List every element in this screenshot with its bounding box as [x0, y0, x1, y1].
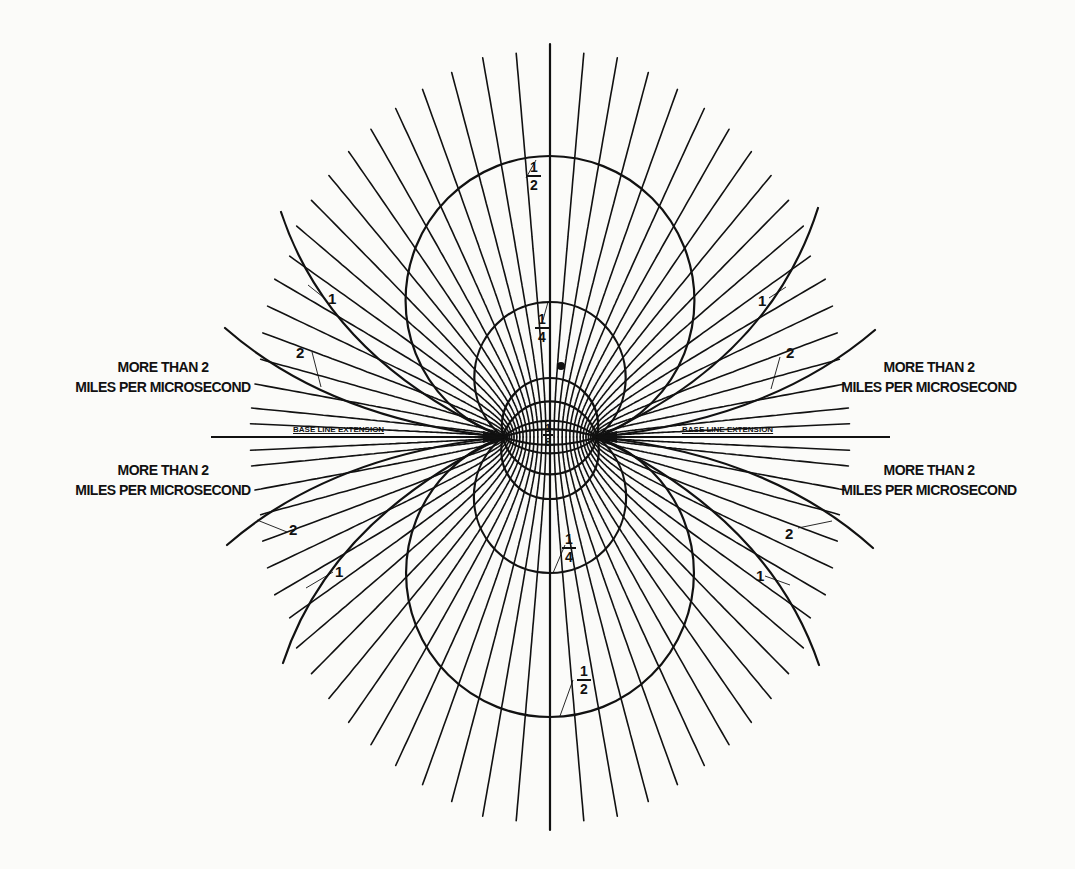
radial-hyperbola-line	[570, 437, 705, 766]
region-label-line2: MILES PER MICROSECOND	[52, 377, 274, 397]
leader-2-upper-left	[312, 352, 321, 387]
region-label-line2: MILES PER MICROSECOND	[818, 377, 1040, 397]
side-contour-label-1-lower-left: 1	[335, 564, 343, 579]
region-label-line1: MORE THAN 2	[818, 460, 1040, 480]
leader-1-upper-right	[769, 287, 786, 298]
region-label-lower-right: MORE THAN 2 MILES PER MICROSECOND	[818, 460, 1040, 500]
region-label-line1: MORE THAN 2	[818, 357, 1040, 377]
hyperbolic-navigation-diagram: BASE LINE EXTENSION BASE LINE EXTENSION …	[0, 0, 1075, 869]
side-contour-label-1-lower-right: 1	[756, 568, 764, 583]
region-label-line1: MORE THAN 2	[52, 460, 274, 480]
contour-label-half-top: 1 2	[527, 160, 541, 192]
contour-label-eighth: 1 8	[543, 423, 553, 447]
leader-half-bottom	[560, 680, 573, 716]
baseline-extension-label-left: BASE LINE EXTENSION	[293, 425, 384, 434]
denominator: 4	[562, 549, 576, 564]
leader-2-lower-left	[257, 520, 287, 532]
side-contour-1-lower-left	[283, 437, 503, 663]
side-contour-label-1-upper-left: 1	[328, 291, 336, 306]
side-contour-1-lower-right	[597, 437, 819, 665]
numerator: 1	[527, 160, 541, 177]
side-contour-label-1-upper-right: 1	[758, 293, 766, 308]
baseline-extension-label-right: BASE LINE EXTENSION	[682, 425, 773, 434]
denominator: 2	[527, 177, 541, 192]
region-label-line1: MORE THAN 2	[52, 357, 274, 377]
denominator: 4	[535, 329, 549, 344]
side-contour-label-2-lower-right: 2	[785, 526, 793, 541]
diagram-canvas	[0, 0, 1075, 869]
denominator: 8	[543, 436, 553, 447]
contour-label-quarter-top: 1 4	[535, 312, 549, 344]
contour-label-quarter-bottom: 1 4	[562, 532, 576, 564]
radial-hyperbola-line	[396, 437, 531, 766]
region-label-upper-right: MORE THAN 2 MILES PER MICROSECOND	[818, 357, 1040, 397]
region-label-upper-left: MORE THAN 2 MILES PER MICROSECOND	[52, 357, 274, 397]
numerator: 1	[562, 532, 576, 549]
leader-2-upper-right	[771, 357, 780, 389]
numerator: 1	[577, 664, 591, 681]
contour-label-half-bottom: 1 2	[577, 664, 591, 696]
numerator: 1	[543, 423, 553, 436]
side-contour-label-2-lower-left: 2	[289, 522, 297, 537]
region-label-lower-left: MORE THAN 2 MILES PER MICROSECOND	[52, 460, 274, 500]
leader-2-lower-right	[798, 521, 832, 528]
side-contour-label-2-upper-left: 2	[296, 345, 304, 360]
region-label-line2: MILES PER MICROSECOND	[52, 480, 274, 500]
side-contour-1-upper-left	[281, 212, 503, 437]
numerator: 1	[535, 312, 549, 329]
denominator: 2	[577, 681, 591, 696]
side-contour-label-2-upper-right: 2	[786, 345, 794, 360]
marker-dot	[557, 362, 565, 370]
region-label-line2: MILES PER MICROSECOND	[818, 480, 1040, 500]
